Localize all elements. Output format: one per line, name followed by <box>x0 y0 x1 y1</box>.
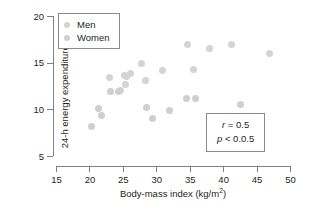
legend: MenWomen <box>58 13 120 49</box>
data-point <box>95 105 102 112</box>
x-tick: 15 <box>56 166 57 172</box>
x-tick-label: 50 <box>285 175 296 185</box>
x-tick-label: 35 <box>185 175 196 185</box>
legend-marker-icon <box>64 35 70 41</box>
legend-label: Women <box>77 33 110 43</box>
x-tick-label: 15 <box>51 175 62 185</box>
x-tick-label: 40 <box>218 175 229 185</box>
legend-marker-icon <box>64 22 70 28</box>
data-point <box>159 67 166 74</box>
data-point <box>127 70 134 77</box>
stats-annotation-box: r = 0.5 p < 0.0.5 <box>206 113 265 152</box>
y-tick-label: 20 <box>33 12 44 22</box>
data-point <box>266 50 273 57</box>
data-point <box>106 74 113 81</box>
x-tick-label: 30 <box>151 175 162 185</box>
y-tick: 20 <box>47 16 53 17</box>
correlation-value: = 0.5 <box>228 119 249 130</box>
pvalue-value: < 0.0.5 <box>225 133 254 144</box>
x-axis-line <box>56 166 290 167</box>
correlation-line: r = 0.5 <box>217 118 254 132</box>
data-point <box>228 41 235 48</box>
data-point <box>149 115 156 122</box>
data-point <box>206 45 213 52</box>
x-tick: 45 <box>257 166 258 172</box>
x-axis-title-close: ) <box>223 188 226 199</box>
y-tick-label: 10 <box>33 105 44 115</box>
correlation-symbol: r <box>222 119 225 130</box>
data-point <box>237 101 244 108</box>
data-point <box>166 107 173 114</box>
x-tick: 20 <box>89 166 90 172</box>
data-point <box>190 66 197 73</box>
y-axis-line <box>53 16 54 156</box>
legend-label: Men <box>77 20 95 30</box>
x-tick: 35 <box>190 166 191 172</box>
pvalue-symbol: p <box>217 133 222 144</box>
y-tick: 10 <box>47 109 53 110</box>
x-tick-label: 25 <box>118 175 129 185</box>
scatter-plot-figure: 5101520 24-h energy expenditure (MJ) 152… <box>0 0 310 214</box>
pvalue-line: p < 0.0.5 <box>217 132 254 146</box>
x-tick: 50 <box>290 166 291 172</box>
y-tick: 15 <box>47 63 53 64</box>
legend-item: Women <box>64 31 110 44</box>
x-tick-label: 45 <box>252 175 263 185</box>
x-tick-label: 20 <box>85 175 96 185</box>
x-tick: 30 <box>156 166 157 172</box>
data-point <box>142 77 149 84</box>
x-axis-title-text: Body-mass index (kg/m <box>120 188 219 199</box>
data-point <box>122 81 129 88</box>
data-point <box>88 123 95 130</box>
data-point <box>115 88 122 95</box>
x-axis-title: Body-mass index (kg/m2) <box>56 188 290 199</box>
legend-item: Men <box>64 18 110 31</box>
y-tick: 5 <box>47 156 53 157</box>
data-point <box>107 88 114 95</box>
y-tick-label: 5 <box>39 152 44 162</box>
data-point <box>184 41 191 48</box>
data-point <box>183 95 190 102</box>
data-point <box>143 104 150 111</box>
x-tick: 25 <box>123 166 124 172</box>
data-point <box>192 95 199 102</box>
data-point <box>98 112 105 119</box>
y-tick-label: 15 <box>33 58 44 68</box>
x-tick: 40 <box>223 166 224 172</box>
data-point <box>138 60 145 67</box>
